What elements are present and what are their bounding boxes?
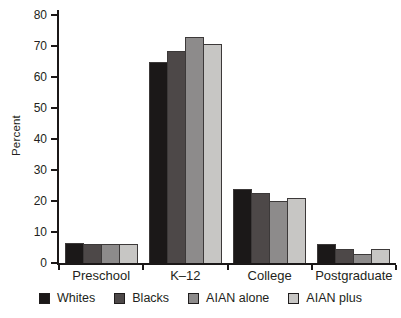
bar-blacks-college xyxy=(251,193,270,263)
y-tick-label-0: 0 xyxy=(21,256,47,270)
legend-swatch-blacks xyxy=(114,293,125,304)
bar-group-k-12 xyxy=(143,15,227,263)
bar-groups xyxy=(59,15,396,263)
bar-group-preschool xyxy=(59,15,143,263)
y-tick-label-20: 20 xyxy=(21,194,47,208)
bar-blacks-k-12 xyxy=(167,51,186,263)
x-category-labels: PreschoolK–12CollegePostgraduate xyxy=(59,268,396,283)
legend: WhitesBlacksAIAN aloneAIAN plus xyxy=(0,291,401,305)
bar-chart-figure: Percent 01020304050607080 PreschoolK–12C… xyxy=(0,0,401,318)
bar-aian-alone-postgraduate xyxy=(353,254,372,263)
bar-aian-alone-preschool xyxy=(101,244,120,263)
legend-label-aian-plus: AIAN plus xyxy=(306,291,362,305)
y-tick-mark-30 xyxy=(51,169,57,171)
x-category-label-k-12: K–12 xyxy=(143,268,227,283)
bar-whites-k-12 xyxy=(149,62,168,264)
bar-aian-alone-k-12 xyxy=(185,37,204,263)
bar-aian-plus-k-12 xyxy=(203,44,222,263)
bar-aian-plus-college xyxy=(287,198,306,263)
y-tick-mark-0 xyxy=(51,262,57,264)
bar-blacks-postgraduate xyxy=(335,249,354,263)
bar-blacks-preschool xyxy=(83,244,102,263)
bar-whites-postgraduate xyxy=(317,244,336,263)
y-tick-mark-40 xyxy=(51,138,57,140)
legend-item-aian-alone: AIAN alone xyxy=(188,291,269,305)
y-tick-mark-50 xyxy=(51,107,57,109)
plot-area: 01020304050607080 xyxy=(59,15,396,263)
y-tick-mark-70 xyxy=(51,45,57,47)
bar-group-college xyxy=(228,15,312,263)
y-tick-mark-10 xyxy=(51,231,57,233)
y-tick-label-80: 80 xyxy=(21,8,47,22)
y-tick-mark-20 xyxy=(51,200,57,202)
bar-group-postgraduate xyxy=(312,15,396,263)
legend-swatch-aian-plus xyxy=(288,293,299,304)
y-tick-label-40: 40 xyxy=(21,132,47,146)
x-category-label-postgraduate: Postgraduate xyxy=(312,268,396,283)
legend-label-whites: Whites xyxy=(57,291,95,305)
y-tick-label-70: 70 xyxy=(21,39,47,53)
y-tick-label-30: 30 xyxy=(21,163,47,177)
x-category-label-preschool: Preschool xyxy=(59,268,143,283)
legend-swatch-aian-alone xyxy=(188,293,199,304)
y-tick-label-60: 60 xyxy=(21,70,47,84)
legend-item-aian-plus: AIAN plus xyxy=(288,291,362,305)
legend-label-aian-alone: AIAN alone xyxy=(206,291,269,305)
x-category-label-college: College xyxy=(228,268,312,283)
y-tick-mark-80 xyxy=(51,14,57,16)
legend-item-blacks: Blacks xyxy=(114,291,169,305)
y-tick-label-50: 50 xyxy=(21,101,47,115)
legend-swatch-whites xyxy=(39,293,50,304)
bar-whites-college xyxy=(233,189,252,263)
y-tick-label-10: 10 xyxy=(21,225,47,239)
bar-whites-preschool xyxy=(65,243,84,263)
legend-label-blacks: Blacks xyxy=(132,291,169,305)
legend-item-whites: Whites xyxy=(39,291,95,305)
y-tick-mark-60 xyxy=(51,76,57,78)
bar-aian-plus-postgraduate xyxy=(371,249,390,263)
bar-aian-plus-preschool xyxy=(119,244,138,263)
bar-aian-alone-college xyxy=(269,201,288,263)
